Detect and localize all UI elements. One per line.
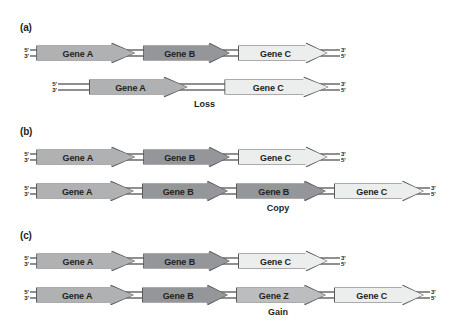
strand-end-right: 3' 5' xyxy=(341,81,346,93)
strand-end-right: 3' 5' xyxy=(431,289,436,301)
five-prime-label: 5' xyxy=(341,53,346,59)
strand-end-right: 3' 5' xyxy=(431,185,436,197)
gene-arrow: Gene A xyxy=(36,43,135,64)
panel-b-variant-strand: 5' 3' 3' 5' Gene A Gene B Gene B xyxy=(30,178,430,204)
event-caption-loss: Loss xyxy=(194,99,215,109)
three-prime-label: 3' xyxy=(24,157,29,163)
gene-arrow: Gene B xyxy=(142,285,228,306)
gene-arrow: Gene C xyxy=(334,181,424,202)
gene-arrow: Gene C xyxy=(224,77,328,98)
panel-c-reference-strand: 5' 3' 3' 5' Gene A Gene B Gene C xyxy=(30,248,340,274)
gene-arrow: Gene A xyxy=(36,147,135,168)
three-prime-label: 3' xyxy=(24,295,29,301)
strand-end-left: 5' 3' xyxy=(24,47,29,59)
five-prime-label: 5' xyxy=(431,191,436,197)
three-prime-label: 3' xyxy=(24,261,29,267)
five-prime-label: 5' xyxy=(341,261,346,267)
panel-c-variant-strand: 5' 3' 3' 5' Gene A Gene B Gene Z xyxy=(30,282,430,308)
strand-end-left: 5' 3' xyxy=(24,289,29,301)
gene-arrow: Gene C xyxy=(238,251,328,272)
three-prime-label: 3' xyxy=(24,53,29,59)
gene-arrow: Gene A xyxy=(89,77,188,98)
five-prime-label: 5' xyxy=(341,157,346,163)
event-caption-gain: Gain xyxy=(268,307,288,317)
gene-arrow: Gene B xyxy=(143,43,230,64)
gene-cnv-figure: (a) 5' 3' 3' 5' Gene A Gene B xyxy=(0,0,456,331)
gene-arrow: Gene A xyxy=(36,285,134,306)
gene-arrow: Gene A xyxy=(36,181,134,202)
three-prime-label: 3' xyxy=(52,87,57,93)
three-prime-label: 3' xyxy=(24,191,29,197)
gene-arrow: Gene C xyxy=(334,285,424,306)
gene-arrow: Gene C xyxy=(238,147,328,168)
strand-end-left: 5' 3' xyxy=(24,185,29,197)
strand-end-left: 5' 3' xyxy=(24,255,29,267)
panel-b-label: (b) xyxy=(20,126,32,137)
panel-a-reference-strand: 5' 3' 3' 5' Gene A Gene B Gene C xyxy=(30,40,340,66)
strand-end-right: 3' 5' xyxy=(341,151,346,163)
strand-end-left: 5' 3' xyxy=(24,151,29,163)
five-prime-label: 5' xyxy=(341,87,346,93)
gene-arrow: Gene A xyxy=(36,251,135,272)
gene-arrow: Gene B xyxy=(143,147,230,168)
gene-arrow: Gene B xyxy=(142,181,228,202)
five-prime-label: 5' xyxy=(431,295,436,301)
gene-arrow: Gene B xyxy=(236,181,326,202)
panel-c-label: (c) xyxy=(20,230,32,241)
gene-arrow: Gene Z xyxy=(236,285,326,306)
strand-end-right: 3' 5' xyxy=(341,47,346,59)
gene-arrow: Gene C xyxy=(238,43,328,64)
strand-end-right: 3' 5' xyxy=(341,255,346,267)
strand-end-left: 5' 3' xyxy=(52,81,57,93)
event-caption-copy: Copy xyxy=(267,203,290,213)
panel-a-label: (a) xyxy=(20,22,32,33)
panel-a-variant-strand: 5' 3' 3' 5' Gene A Gene C Loss xyxy=(58,74,340,100)
panel-b-reference-strand: 5' 3' 3' 5' Gene A Gene B Gene C xyxy=(30,144,340,170)
gene-arrow: Gene B xyxy=(143,251,230,272)
